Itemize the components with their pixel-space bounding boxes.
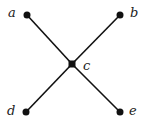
node-c (69, 61, 76, 68)
label-d: d (7, 103, 15, 118)
edge-d-c (26, 64, 72, 112)
label-a: a (8, 5, 16, 20)
edge-b-c (72, 15, 120, 64)
node-a (24, 12, 31, 19)
node-e (117, 109, 124, 116)
node-b (117, 12, 124, 19)
node-d (23, 109, 30, 116)
label-e: e (129, 103, 137, 118)
label-b: b (130, 5, 138, 20)
edge-e-c (72, 64, 120, 112)
star-graph-diagram: a b c d e (0, 0, 143, 122)
label-c: c (83, 58, 91, 73)
edge-a-c (27, 15, 72, 64)
